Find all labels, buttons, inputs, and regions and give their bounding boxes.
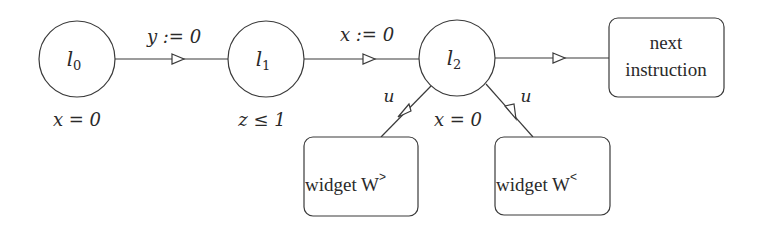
box-label-line1: next bbox=[650, 32, 683, 53]
location-subscript: 0 bbox=[73, 58, 81, 73]
widget-superscript: > bbox=[379, 170, 386, 184]
edge-l2-widget-less: u bbox=[486, 84, 533, 137]
edge-l2-next bbox=[495, 53, 609, 63]
widget-superscript: < bbox=[570, 170, 577, 184]
edge-label-u-left: u bbox=[384, 86, 395, 106]
location-l1: l1 z ≤ 1 bbox=[228, 21, 304, 130]
edge-label-y-reset: y := 0 bbox=[146, 26, 201, 47]
arrowhead-icon bbox=[398, 104, 411, 117]
arrowhead-icon bbox=[553, 53, 565, 63]
automaton-diagram: y := 0 x := 0 u u l0 x = 0 l1 z ≤ 1 l2 bbox=[0, 0, 761, 228]
svg-text:widget W>: widget W> bbox=[305, 170, 386, 195]
widget-label: widget W bbox=[305, 174, 379, 195]
edge-l2-widget-greater: u bbox=[381, 86, 431, 137]
location-subscript: 2 bbox=[453, 57, 461, 72]
edge-l0-l1: y := 0 bbox=[115, 26, 228, 64]
arrowhead-icon bbox=[363, 54, 375, 64]
invariant-l2: x = 0 bbox=[434, 109, 482, 130]
box-widget-less: widget W< bbox=[495, 137, 610, 215]
invariant-l1: z ≤ 1 bbox=[237, 109, 285, 130]
svg-text:widget W<: widget W< bbox=[496, 170, 577, 195]
location-l0: l0 x = 0 bbox=[39, 21, 115, 130]
widget-label: widget W bbox=[496, 174, 570, 195]
edge-label-x-reset: x := 0 bbox=[340, 24, 394, 45]
box-next-instruction: next instruction bbox=[609, 18, 724, 97]
edge-label-u-right: u bbox=[521, 86, 532, 106]
box-widget-greater: widget W> bbox=[304, 137, 418, 216]
arrowhead-icon bbox=[505, 104, 516, 119]
location-l2: l2 x = 0 bbox=[419, 20, 495, 130]
box-label-line2: instruction bbox=[625, 59, 707, 80]
invariant-l0: x = 0 bbox=[53, 109, 101, 130]
edge-l1-l2: x := 0 bbox=[304, 24, 419, 64]
location-subscript: 1 bbox=[262, 58, 270, 73]
arrowhead-icon bbox=[172, 54, 184, 64]
